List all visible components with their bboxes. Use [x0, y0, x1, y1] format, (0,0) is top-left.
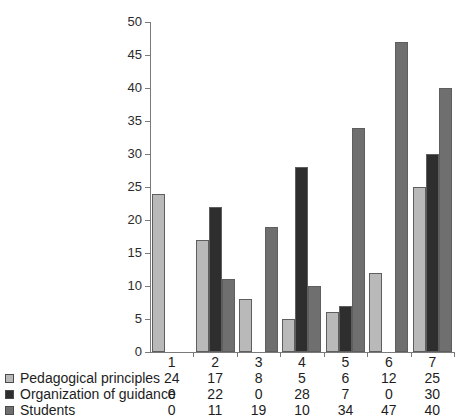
bar [413, 187, 426, 352]
y-axis-tick-mark [145, 352, 150, 353]
bar [439, 88, 452, 352]
bar-chart-figure: 05101520253035404550 1234567 Pedagogical… [0, 0, 462, 416]
legend-swatch [5, 406, 14, 415]
table-header-cell: 5 [325, 354, 365, 370]
table-cell: 28 [282, 386, 322, 402]
bar-group [280, 22, 323, 352]
table-header-cell: 1 [152, 354, 192, 370]
table-row: Students0111910344740 [0, 402, 462, 416]
x-axis-line [150, 352, 454, 353]
bar [426, 154, 439, 352]
table-cell: 0 [152, 386, 192, 402]
bar [265, 227, 278, 352]
table-header-cell: 6 [369, 354, 409, 370]
table-header-cell: 2 [195, 354, 235, 370]
table-cell: 12 [369, 370, 409, 386]
bar-group [411, 22, 454, 352]
plot-area: 05101520253035404550 [150, 22, 454, 352]
y-axis-tick-label: 40 [128, 80, 142, 96]
table-header-cell: 7 [412, 354, 452, 370]
bar [209, 207, 222, 352]
y-axis-tick-label: 25 [128, 179, 142, 195]
bar-group [150, 22, 193, 352]
y-axis-tick-label: 5 [135, 311, 142, 327]
table-cell: 0 [152, 402, 192, 416]
bar [282, 319, 295, 352]
table-cell: 25 [412, 370, 452, 386]
bar [308, 286, 321, 352]
bar [152, 194, 165, 352]
bar [369, 273, 382, 352]
table-cell: 40 [412, 402, 452, 416]
table-cell: 0 [369, 386, 409, 402]
bar [295, 167, 308, 352]
y-axis-tick-label: 35 [128, 113, 142, 129]
table-row: Organization of guidance0220287030 [0, 386, 462, 402]
table-cell: 8 [239, 370, 279, 386]
y-axis-tick-label: 15 [128, 245, 142, 261]
table-cell: 22 [195, 386, 235, 402]
bar-group [324, 22, 367, 352]
table-cell: 5 [282, 370, 322, 386]
bar [395, 42, 408, 352]
legend-label: Pedagogical principles [20, 370, 160, 386]
bar [339, 306, 352, 352]
table-header-cell: 4 [282, 354, 322, 370]
bar-group [237, 22, 280, 352]
table-row: Pedagogical principles24178561225 [0, 370, 462, 386]
bar [239, 299, 252, 352]
table-cell: 30 [412, 386, 452, 402]
bar [196, 240, 209, 352]
table-cell: 47 [369, 402, 409, 416]
y-axis-tick-label: 30 [128, 146, 142, 162]
table-cell: 19 [239, 402, 279, 416]
data-table: 1234567 Pedagogical principles2417856122… [0, 354, 462, 416]
legend-swatch [5, 390, 14, 399]
table-cell: 7 [325, 386, 365, 402]
table-cell: 11 [195, 402, 235, 416]
bar [222, 279, 235, 352]
y-axis-tick-label: 10 [128, 278, 142, 294]
y-axis-tick-label: 50 [128, 14, 142, 30]
legend-swatch [5, 374, 14, 383]
table-cell: 6 [325, 370, 365, 386]
bar-group [193, 22, 236, 352]
bar [326, 312, 339, 352]
table-header-row: 1234567 [0, 354, 462, 370]
table-cell: 10 [282, 402, 322, 416]
table-cell: 0 [239, 386, 279, 402]
y-axis-tick-label: 45 [128, 47, 142, 63]
table-cell: 34 [325, 402, 365, 416]
table-cell: 17 [195, 370, 235, 386]
table-header-cell: 3 [239, 354, 279, 370]
bar [352, 128, 365, 352]
table-cell: 24 [152, 370, 192, 386]
y-axis-tick-label: 20 [128, 212, 142, 228]
bar-group [367, 22, 410, 352]
legend-label: Students [20, 402, 75, 416]
